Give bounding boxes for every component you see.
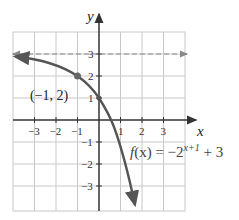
y-tick-label: 1 [88,92,94,104]
x-tick-label: −2 [50,125,62,137]
y-tick-label: 3 [88,48,94,60]
x-tick-label: 2 [139,125,145,137]
y-intercept-marker [97,96,102,101]
point-marker [74,73,81,80]
y-axis-label: y [85,8,94,24]
y-tick-label: 2 [88,70,94,82]
function-graph: −3 −2 −1 1 2 3 3 2 1 −1 −2 −3 y x (−1, 2… [0,0,239,220]
function-label: f(x) = −2x+1 + 3 [130,142,223,161]
y-tick-label: −3 [81,180,93,192]
y-tick-label: −1 [81,136,93,148]
x-tick-label: 1 [118,125,124,137]
x-tick-label: 3 [161,125,167,137]
y-tick-label: −2 [81,158,93,170]
x-tick-label: −3 [28,125,40,137]
point-label: (−1, 2) [30,88,69,104]
x-axis-label: x [196,123,204,139]
